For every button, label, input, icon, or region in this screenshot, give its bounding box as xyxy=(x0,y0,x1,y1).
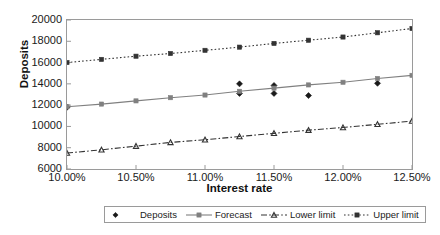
x-axis-title: Interest rate xyxy=(66,182,413,194)
legend-label: Lower limit xyxy=(290,210,335,220)
y-tick-label: 16000 xyxy=(14,57,62,68)
y-tick-label: 18000 xyxy=(14,35,62,46)
plot-area xyxy=(66,19,413,170)
legend-key-icon xyxy=(111,210,137,220)
legend-item-lower-limit: Lower limit xyxy=(261,210,335,220)
y-tick-label: 20000 xyxy=(14,14,62,25)
series-canvas xyxy=(67,20,412,169)
y-tick-label: 14000 xyxy=(14,78,62,89)
y-tick-label: 8000 xyxy=(14,142,62,153)
chart-figure: Deposits 2000018000160001400012000100008… xyxy=(0,0,440,235)
y-tick-label: 12000 xyxy=(14,99,62,110)
legend-item-forecast: Forecast xyxy=(186,210,252,220)
series-deposits xyxy=(67,80,381,110)
legend-item-deposits: Deposits xyxy=(111,210,177,220)
series-forecast xyxy=(67,73,412,109)
series-upper-limit xyxy=(67,26,412,64)
legend-item-upper-limit: Upper limit xyxy=(344,210,418,220)
y-tick-label: 10000 xyxy=(14,120,62,131)
legend-label: Forecast xyxy=(215,210,252,220)
legend-label: Upper limit xyxy=(373,210,418,220)
legend-key-icon xyxy=(261,210,287,220)
legend-key-icon xyxy=(186,210,212,220)
legend-key-icon xyxy=(344,210,370,220)
chart-legend: DepositsForecastLower limitUpper limit xyxy=(104,206,426,223)
legend-label: Deposits xyxy=(140,210,177,220)
series-lower-limit xyxy=(67,119,412,156)
